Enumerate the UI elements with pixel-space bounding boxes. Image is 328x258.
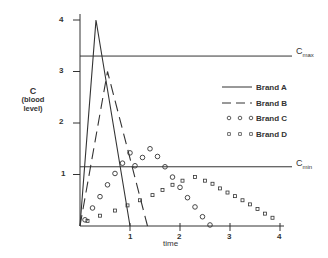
data-point-brand-c <box>133 163 138 168</box>
data-point-brand-d <box>241 199 244 202</box>
legend-marker-brand-d <box>228 133 231 136</box>
cmin-label: Cmin <box>296 159 312 170</box>
data-point-brand-d <box>256 208 259 211</box>
data-point-brand-c <box>185 195 190 200</box>
legend-marker-brand-d <box>239 133 242 136</box>
y-axis-label: C (blood level) <box>18 86 48 114</box>
data-point-brand-d <box>271 216 274 219</box>
data-point-brand-c <box>120 161 125 166</box>
data-point-brand-c <box>178 185 183 190</box>
data-point-brand-c <box>90 206 95 211</box>
x-tick-label-2: 2 <box>177 233 181 241</box>
data-point-brand-d <box>181 179 184 182</box>
data-point-brand-c <box>170 175 175 180</box>
legend-label-brand-d: Brand D <box>256 130 287 139</box>
data-point-brand-d <box>171 183 174 186</box>
legend-marker-brand-c <box>227 116 231 120</box>
x-axis-label: time <box>163 240 178 248</box>
data-point-brand-d <box>114 209 117 212</box>
data-point-brand-d <box>211 182 214 185</box>
legend-marker-brand-d <box>250 133 253 136</box>
y-tick-label-4: 4 <box>59 16 63 24</box>
legend-marker-brand-c <box>238 116 242 120</box>
data-point-brand-d <box>219 187 222 190</box>
data-point-brand-d <box>234 195 237 198</box>
legend-label-brand-c: Brand C <box>256 114 287 123</box>
y-tick-label-3: 3 <box>59 67 63 75</box>
data-point-brand-d <box>151 194 154 197</box>
x-tick-label-3: 3 <box>227 233 231 241</box>
legend-label-brand-b: Brand B <box>256 99 287 108</box>
data-point-brand-c <box>193 205 198 210</box>
data-point-brand-c <box>200 214 205 219</box>
x-tick-label-1: 1 <box>128 233 132 241</box>
data-point-brand-c <box>140 155 145 160</box>
legend-marker-brand-c <box>249 116 253 120</box>
data-point-brand-d <box>99 214 102 217</box>
y-label-line-3: level) <box>18 105 48 114</box>
data-point-brand-d <box>226 191 229 194</box>
chart-canvas <box>0 0 328 258</box>
data-point-brand-d <box>264 212 267 215</box>
data-point-brand-d <box>194 176 197 179</box>
series-brand-a <box>80 20 130 226</box>
y-tick-label-1: 1 <box>61 170 65 178</box>
x-tick-label-4: 4 <box>277 233 281 241</box>
y-tick-label-2: 2 <box>59 118 63 126</box>
data-point-brand-c <box>208 223 213 228</box>
data-point-brand-c <box>83 218 88 223</box>
data-point-brand-c <box>148 146 153 151</box>
data-point-brand-c <box>105 183 110 188</box>
data-point-brand-d <box>161 188 164 191</box>
data-point-brand-c <box>98 194 103 199</box>
data-point-brand-d <box>249 203 252 206</box>
data-point-brand-c <box>155 154 160 159</box>
data-point-brand-c <box>113 171 118 176</box>
data-point-brand-d <box>204 179 207 182</box>
cmax-label: Cmax <box>296 47 314 58</box>
legend-label-brand-a: Brand A <box>256 83 287 92</box>
